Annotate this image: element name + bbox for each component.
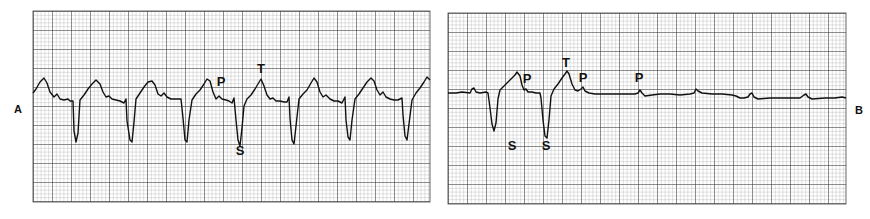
wave-label-p: P: [635, 70, 644, 85]
wave-label-t: T: [562, 55, 570, 70]
wave-label-t: T: [257, 61, 265, 76]
wave-label-p: P: [217, 74, 226, 89]
grid-paper-a: [33, 11, 430, 202]
panel-label-b: B: [855, 104, 863, 116]
ecg-figure: PTS PTPSSP: [0, 0, 870, 219]
grid-paper-b: [448, 13, 846, 204]
panel-label-a: A: [14, 103, 22, 115]
wave-label-s: S: [508, 138, 517, 153]
panel-b: PTPSSP: [448, 13, 846, 204]
wave-label-s: S: [236, 143, 245, 158]
wave-label-s: S: [542, 138, 551, 153]
wave-label-p: P: [523, 71, 532, 86]
panel-a: PTS: [33, 11, 430, 202]
wave-label-p: P: [579, 70, 588, 85]
